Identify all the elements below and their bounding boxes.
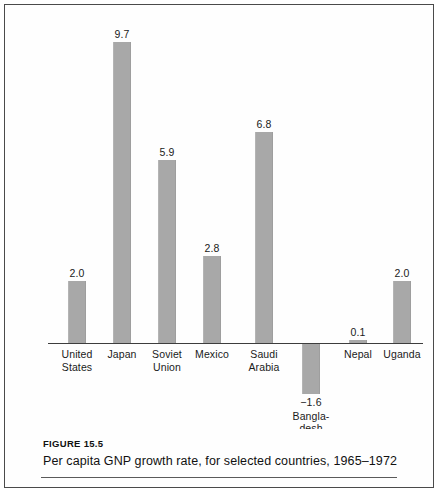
bar-value-label: 2.0: [54, 267, 100, 279]
figure-frame: 2.09.75.92.86.8−1.60.12.0 UnitedStatesJa…: [4, 4, 434, 488]
bar-value-label: 0.1: [335, 326, 381, 338]
bar-saudi-arabia: [255, 132, 273, 343]
axis-label-mexico: Mexico: [183, 348, 241, 361]
axis-label-line: Saudi: [235, 348, 293, 361]
bar-united-states: [68, 281, 86, 343]
bar-soviet-union: [158, 160, 176, 343]
bar-value-label: −1.6: [288, 396, 334, 408]
axis-label-line: Mexico: [183, 348, 241, 361]
bar-mexico: [203, 256, 221, 343]
figure-caption-text: Per capita GNP growth rate, for selected…: [43, 454, 397, 468]
axis-label-saudi-arabia: SaudiArabia: [235, 348, 293, 373]
bar-uganda: [393, 281, 411, 343]
chart-plot-area: 2.09.75.92.86.8−1.60.12.0 UnitedStatesJa…: [5, 5, 433, 429]
figure-number-label: FIGURE 15.5: [43, 438, 103, 449]
bar-value-label: 5.9: [144, 146, 190, 158]
axis-label-line: States: [48, 361, 106, 374]
axis-label-bangladesh: Bangla-desh: [282, 410, 340, 429]
bar-value-label: 6.8: [241, 118, 287, 130]
axis-label-line: Union: [138, 361, 196, 374]
bar-nepal: [349, 340, 367, 343]
figure-caption-block: [5, 477, 433, 487]
bar-value-label: 2.0: [379, 267, 425, 279]
axis-label-line: Uganda: [373, 348, 431, 361]
bar-bangladesh: [302, 344, 320, 394]
axis-label-line: Arabia: [235, 361, 293, 374]
zero-axis-line: [48, 343, 423, 344]
caption-divider: [41, 477, 397, 478]
axis-label-uganda: Uganda: [373, 348, 431, 361]
bar-value-label: 2.8: [189, 242, 235, 254]
axis-label-line: desh: [282, 422, 340, 429]
bar-value-label: 9.7: [99, 28, 145, 40]
bar-japan: [113, 42, 131, 343]
axis-label-line: Bangla-: [282, 410, 340, 423]
